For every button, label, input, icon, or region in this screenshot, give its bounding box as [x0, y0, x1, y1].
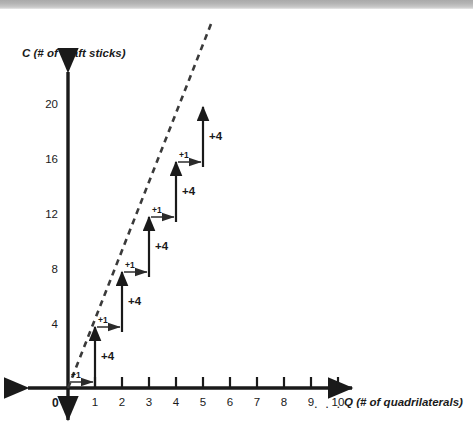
step-label-plus1-1: +1	[98, 315, 108, 325]
step-label-plus4-1: +4	[128, 295, 141, 307]
y-tick-label-12: 12	[32, 208, 58, 220]
x-tick-label-6: 6	[220, 396, 240, 408]
y-tick-label-4: 4	[32, 318, 58, 330]
y-tick-label-8: 8	[32, 263, 58, 275]
x-tick-label-0: 0	[52, 396, 59, 410]
x-tick-label-7: 7	[247, 396, 267, 408]
step-label-plus4-3: +4	[182, 185, 195, 197]
y-tick-label-16: 16	[32, 153, 58, 165]
step-label-plus4-0: +4	[101, 350, 114, 362]
x-tick-label-3: 3	[139, 396, 159, 408]
trend-line-dashed	[68, 24, 211, 388]
step-label-plus1-0: +1	[71, 370, 81, 380]
x-tick-label-1: 1	[85, 396, 105, 408]
x-tick-label-8: 8	[274, 396, 294, 408]
y-tick-label-20: 20	[32, 98, 58, 110]
x-tick-label-4: 4	[166, 396, 186, 408]
y-axis-title: C (# of craft sticks)	[22, 47, 126, 59]
x-axis-title: Q (# of quadrilaterals)	[344, 396, 463, 408]
step-label-plus4-4: +4	[209, 130, 222, 142]
step-label-plus1-3: +1	[152, 205, 162, 215]
step-label-plus1-2: +1	[125, 260, 135, 270]
x-tick-label-2: 2	[112, 396, 132, 408]
x-axis-continuation: . . .	[314, 396, 342, 411]
step-label-plus1-4: +1	[179, 150, 189, 160]
x-tick-label-5: 5	[193, 396, 213, 408]
step-label-plus4-2: +4	[155, 240, 168, 252]
